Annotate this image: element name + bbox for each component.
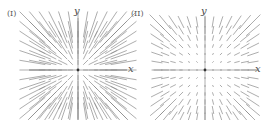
field-arrow [213,62,214,63]
field-arrow [227,53,230,55]
field-arrow [227,92,231,96]
field-arrow [179,85,182,87]
field-arrow [169,26,176,35]
field-arrow [220,35,223,40]
field-arrow [84,60,88,64]
field-arrow [213,45,214,48]
field-arrow [213,85,214,86]
origin-point [204,69,207,72]
field-arrow [187,106,190,114]
field-arrow [150,111,164,120]
field-arrow [227,35,231,41]
field-arrow [241,77,248,78]
field-arrow [248,61,258,63]
field-arrow [197,62,198,63]
field-arrow [248,77,258,79]
field-arrow [188,85,190,87]
field-arrow [212,17,214,27]
field-arrow [161,84,169,87]
field-arrow [227,99,231,105]
field-arrow [241,52,249,55]
field-arrow [233,26,240,35]
field-arrow [220,62,221,63]
field-arrow [233,106,240,115]
field-arrow [161,98,170,105]
field-arrow [84,76,88,80]
field-arrow [170,53,175,56]
field-arrow [161,61,168,62]
field-arrow [213,53,214,54]
field-arrow [179,35,183,41]
field-arrow [220,44,222,47]
field-arrow [68,60,72,64]
field-arrow [180,78,183,79]
field-arrow [248,84,259,88]
vector-field-plots [0,0,271,120]
field-arrow [212,100,213,105]
field-arrow [197,53,198,54]
field-arrow [188,78,189,79]
field-arrow [161,44,169,49]
field-arrow [188,44,190,47]
field-arrow [188,53,190,55]
field-arrow [170,92,176,96]
field-arrow [197,78,198,79]
field-arrow [95,103,108,120]
field-arrow [220,78,221,79]
field-arrow [212,36,213,41]
field-arrow [247,43,258,49]
field-arrow [151,43,162,49]
field-arrow [68,76,72,80]
field-arrow [246,111,260,120]
field-arrow [188,62,189,63]
field-arrow [226,16,232,27]
field-arrow [179,99,183,105]
field-arrow [241,98,250,105]
field-arrow [152,77,162,79]
field-arrow [227,44,231,48]
field-arrow [161,52,169,55]
field-arrow [49,103,62,120]
field-arrow [197,93,198,96]
field-arrow [197,45,198,48]
field-arrow [235,77,240,78]
field-arrow [241,44,249,49]
field-arrow [227,106,232,114]
field-arrow [161,77,168,78]
field-arrow [170,44,176,48]
field-arrow [179,53,182,55]
field-arrow [170,99,176,105]
field-arrow [212,26,213,33]
field-arrow [151,91,162,97]
field-arrow [188,99,191,104]
field-arrow [219,106,222,114]
field-arrow [241,61,248,62]
field-arrow [161,92,169,97]
field-arrow [111,103,136,120]
field-arrow [234,35,240,41]
field-arrow [220,92,222,95]
field-arrow [196,100,197,105]
field-arrow [161,34,170,41]
field-arrow [241,92,249,97]
field-arrow [171,77,176,78]
field-arrow [234,85,239,88]
field-arrow [188,92,190,95]
field-arrow [179,26,184,34]
field-arrow [228,78,231,79]
field-arrow [234,99,240,105]
field-arrow [196,26,197,33]
field-arrow [234,44,240,48]
field-arrow [152,84,163,88]
field-arrow [220,99,223,104]
field-arrow [20,103,45,120]
field-arrow [240,111,251,120]
field-arrow [219,26,222,34]
field-arrow [160,111,171,120]
field-arrow [179,92,183,96]
field-arrow [246,15,260,29]
field-arrow [188,35,191,40]
field-arrow [196,113,198,120]
field-arrow [170,85,175,88]
field-arrow [241,84,249,87]
